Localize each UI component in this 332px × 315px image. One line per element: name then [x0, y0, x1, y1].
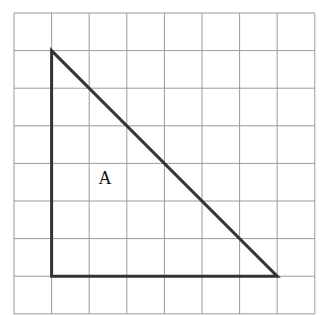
grid-diagram: A: [0, 0, 332, 315]
triangle-label: A: [99, 168, 112, 188]
